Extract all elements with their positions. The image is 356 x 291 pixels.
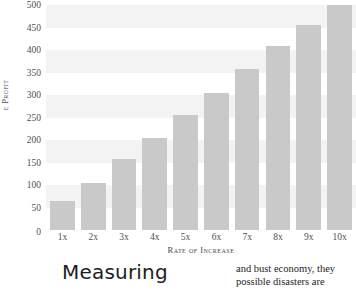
y-axis-tick-label: 150 — [17, 158, 41, 168]
y-axis-tick-label: 100 — [17, 180, 41, 190]
x-axis-tick-label: 9x — [293, 232, 324, 242]
bar[interactable] — [204, 93, 229, 230]
bar-slot — [170, 5, 201, 230]
bar-slot — [139, 5, 170, 230]
bar-slot — [232, 5, 263, 230]
bar[interactable] — [112, 159, 137, 230]
bar[interactable] — [327, 5, 352, 230]
bar-slot — [324, 5, 355, 230]
bar-slot — [109, 5, 140, 230]
article-body-line: and bust economy, they — [236, 262, 356, 275]
bar[interactable] — [50, 201, 75, 230]
x-axis-tick-label: 8x — [263, 232, 294, 242]
x-axis-tick-label: 3x — [109, 232, 140, 242]
y-axis-title: e Profit — [0, 60, 14, 130]
bar-series — [46, 5, 356, 230]
article-body-line: possible disasters are — [236, 275, 356, 288]
y-axis-tick-label: 400 — [17, 45, 41, 55]
bar[interactable] — [235, 69, 260, 230]
bar[interactable] — [266, 46, 291, 230]
bar[interactable] — [296, 25, 321, 230]
screenshot-root: e Profit 50100150200250300350400450500 0… — [0, 0, 356, 291]
y-axis-tick-label: 50 — [17, 203, 41, 213]
x-axis-tick-label: 4x — [139, 232, 170, 242]
x-axis-title: Rate of Increase — [46, 245, 356, 255]
x-axis-tick-labels: 1x2x3x4x5x6x7x8x9x10x — [46, 232, 356, 242]
bar-slot — [293, 5, 324, 230]
y-axis-tick-label: 250 — [17, 113, 41, 123]
x-axis-tick-label: 7x — [232, 232, 263, 242]
y-axis-tick-labels: 50100150200250300350400450500 — [18, 2, 44, 230]
plot-wrapper: 50100150200250300350400450500 0 1x2x3x4x… — [18, 2, 356, 252]
bar-chart-figure: e Profit 50100150200250300350400450500 0… — [0, 0, 356, 258]
bar-slot — [47, 5, 78, 230]
y-axis-tick-label: 450 — [17, 23, 41, 33]
plot-area — [46, 5, 356, 230]
bar[interactable] — [173, 115, 198, 230]
bar-slot — [201, 5, 232, 230]
y-axis-tick-label: 350 — [17, 68, 41, 78]
y-axis-tick-label: 500 — [17, 0, 41, 10]
x-axis-tick-label: 2x — [78, 232, 109, 242]
bar[interactable] — [142, 138, 167, 230]
x-axis-tick-label: 1x — [47, 232, 78, 242]
bar-slot — [263, 5, 294, 230]
article-section: Measuring and bust economy, theypossible… — [0, 258, 356, 291]
y-axis-tick-label: 300 — [17, 90, 41, 100]
x-axis-tick-label: 10x — [324, 232, 355, 242]
x-axis-tick-label: 6x — [201, 232, 232, 242]
y-axis-zero-label: 0 — [18, 227, 44, 237]
bar-slot — [78, 5, 109, 230]
y-axis-tick-label: 200 — [17, 135, 41, 145]
x-axis-tick-label: 5x — [170, 232, 201, 242]
article-body-column: and bust economy, theypossible disasters… — [236, 262, 356, 288]
bar[interactable] — [81, 183, 106, 230]
article-headline: Measuring — [62, 260, 168, 284]
